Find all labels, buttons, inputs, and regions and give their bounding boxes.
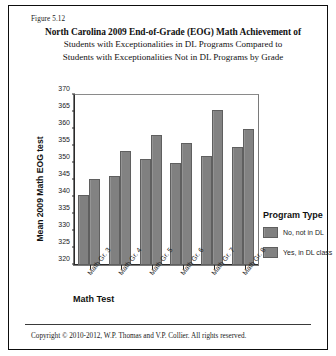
y-axis-tick-mark xyxy=(72,128,75,129)
figure-border: Figure 5.12 North Carolina 2009 End-of-G… xyxy=(8,5,328,350)
bar-groups xyxy=(74,95,258,265)
copyright-text: Copyright © 2010-2012, W.P. Thomas and V… xyxy=(31,332,246,340)
bar-group xyxy=(232,95,254,265)
y-axis-tick-label: 360 xyxy=(58,119,74,126)
bar[interactable] xyxy=(120,151,131,265)
y-axis-tick-label: 340 xyxy=(58,187,74,194)
chart-title-line-1: North Carolina 2009 End-of-Grade (EOG) M… xyxy=(23,26,323,38)
y-axis-tick-mark xyxy=(72,264,75,265)
chart-legend: Program Type No, not in DLYes, in DL cla… xyxy=(263,210,336,267)
y-axis-tick-label: 350 xyxy=(58,153,74,160)
footer-divider xyxy=(25,324,311,325)
y-axis-tick-mark xyxy=(72,247,75,248)
y-axis-tick-label: 330 xyxy=(58,221,74,228)
bar-group xyxy=(109,95,131,265)
y-axis-tick-label: 355 xyxy=(58,136,74,143)
x-axis-title: Math Test xyxy=(73,294,114,304)
y-axis-tick-mark xyxy=(72,94,75,95)
y-axis-tick-label: 335 xyxy=(58,204,74,211)
y-axis-tick-mark xyxy=(72,145,75,146)
legend-swatch xyxy=(263,227,278,238)
bar[interactable] xyxy=(89,179,100,265)
bar[interactable] xyxy=(181,143,192,265)
bar-group xyxy=(140,95,162,265)
y-axis-tick-mark xyxy=(72,179,75,180)
bar[interactable] xyxy=(151,135,162,265)
chart-title-line-2: Students with Exceptionalities in DL Pro… xyxy=(23,38,323,50)
chart-title: North Carolina 2009 End-of-Grade (EOG) M… xyxy=(23,26,323,63)
bar-group xyxy=(78,95,100,265)
chart-title-line-3: Students with Exceptionalities Not in DL… xyxy=(23,51,323,63)
bar-group xyxy=(201,95,223,265)
legend-item-label: No, not in DL xyxy=(283,229,324,236)
plot-area: 320325330335340345350355360365370 xyxy=(73,94,259,266)
figure-caption: Figure 5.12 xyxy=(31,15,65,23)
bar-group xyxy=(170,95,192,265)
y-axis-tick-label: 320 xyxy=(58,255,74,262)
bar[interactable] xyxy=(212,110,223,265)
legend-item[interactable]: Yes, in DL class xyxy=(263,247,336,258)
bar[interactable] xyxy=(78,195,89,265)
y-axis-tick-mark xyxy=(72,196,75,197)
legend-item[interactable]: No, not in DL xyxy=(263,227,336,238)
y-axis-tick-label: 365 xyxy=(58,102,74,109)
figure-page: Figure 5.12 North Carolina 2009 End-of-G… xyxy=(0,0,336,356)
y-axis-tick-label: 345 xyxy=(58,170,74,177)
y-axis-tick-mark xyxy=(72,162,75,163)
y-axis-tick-mark xyxy=(72,213,75,214)
y-axis-tick-label: 325 xyxy=(58,238,74,245)
legend-item-label: Yes, in DL class xyxy=(283,249,332,256)
y-axis-tick-mark xyxy=(72,230,75,231)
y-axis-tick-mark xyxy=(72,111,75,112)
y-axis-tick-label: 370 xyxy=(58,85,74,92)
y-axis-title: Mean 2009 Math EOG test xyxy=(35,124,45,254)
bar-chart: Mean 2009 Math EOG test 3203253303353403… xyxy=(27,88,323,323)
legend-title: Program Type xyxy=(263,210,336,220)
bar[interactable] xyxy=(243,129,254,265)
